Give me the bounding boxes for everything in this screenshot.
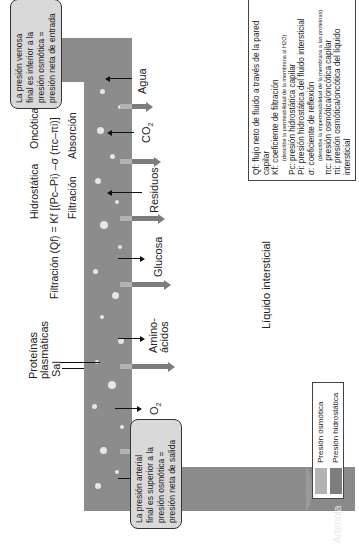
label-o2: O2 <box>148 403 162 415</box>
def-pii: πi: presión osmótica/oncótica del líquid… <box>333 3 352 175</box>
label-co2: CO2 <box>140 123 154 143</box>
equation-bottom-left: Filtración <box>66 176 78 219</box>
label-glucosa: Glucosa <box>152 237 164 277</box>
legend-item-hydrostatic: Presión hidrostática <box>328 383 343 498</box>
capillary-exchange-diagram: Arteriola Vénula Agua O2 <box>0 0 359 549</box>
label-agua-in: Agua <box>136 68 148 94</box>
equation-top-left: Hidrostática <box>28 164 40 219</box>
definitions-box: Qf: flujo neto de fluido a través de la … <box>248 0 356 181</box>
legend: Presión osmótica Presión hidrostática <box>312 382 344 499</box>
filtration-equation: Filtración (Qf) = Kf [(Pc–Pi) –σ (πc–πi)… <box>48 117 60 299</box>
equation-top-right: Oncótica <box>28 108 40 149</box>
def-kf: Kf: coeficiente de filtración <box>271 3 281 175</box>
def-pic: πc: presión osmótica/oncótica capilar <box>324 3 334 175</box>
def-pc: Pc: presión hidrostática capilar <box>288 3 298 175</box>
def-pi: Pi: presión hidrostática del fluido inte… <box>297 3 307 175</box>
label-residuos: Residuos <box>148 167 160 213</box>
venous-pressure-note: La presión venosafinal es inferior a lap… <box>10 0 62 109</box>
def-sigma: σ: coeficiente de reflexión <box>307 3 317 175</box>
arterial-pressure-note: La presión arterialfinal es superior a l… <box>130 419 182 529</box>
arteriole-label: Arteriola <box>332 506 343 543</box>
label-sal: Sal <box>50 361 62 377</box>
label-aminoacidos: Amino-ácidos <box>148 318 170 353</box>
legend-item-osmotic: Presión osmótica <box>313 383 328 498</box>
label-proteinas: Proteínasplasmáticas <box>28 321 50 379</box>
def-qf: Qf: flujo neto de fluido a través de la … <box>252 3 271 175</box>
interstitial-fluid-label: Líquido intersticial <box>260 241 272 329</box>
equation-bottom-right: Absorción <box>66 112 78 159</box>
